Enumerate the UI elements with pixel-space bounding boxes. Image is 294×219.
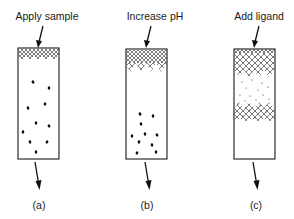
caption-a: (a) [33,199,46,211]
eluate-arrow-icon [145,162,152,190]
buffer-in-arrow-icon [144,26,151,48]
ligand-dot [262,94,263,95]
ligand-dot [249,95,250,96]
panel-c: Add ligand (c) [234,10,284,211]
panel-a: Apply sample (a) [15,10,78,211]
ligand-dot [267,86,268,87]
eluate-arrow-icon [35,162,42,190]
ligand-dot [251,79,252,80]
sample-in-arrow-icon [36,26,43,48]
caption-c: (c) [250,199,262,211]
ligand-dot [244,100,245,101]
instruction-label-c: Add ligand [234,10,284,22]
panel-b: Increase pH (b) [126,10,183,211]
ligand-dot [245,87,246,88]
ligand-dot [239,94,240,95]
eluate-arrow-icon [253,162,260,190]
caption-b: (b) [141,199,154,211]
ligand-dot [257,89,258,90]
instruction-label-b: Increase pH [127,10,184,22]
chromatography-column-diagram: Apply sample (a) Increase pH [0,0,294,219]
ligand-dot [268,98,269,99]
ligand-in-arrow-icon [252,26,259,48]
ligand-dot [261,82,262,83]
ligand-dot [241,81,242,82]
instruction-label-a: Apply sample [15,10,78,22]
ligand-dot [255,99,256,100]
column-a [18,48,59,159]
